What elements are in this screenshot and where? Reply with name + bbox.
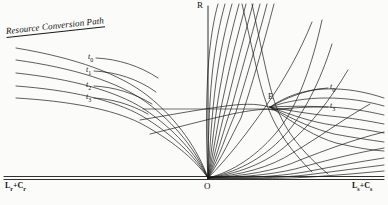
- curve-label-left-t1: t1: [86, 66, 91, 76]
- left-label-leaders: [94, 58, 158, 114]
- left-axis-sub-r2: r: [23, 186, 26, 192]
- r-axis-label: R: [197, 1, 203, 10]
- curve-label-left-t0: t0: [88, 53, 93, 63]
- curve-label-left-t2: t2: [86, 81, 91, 91]
- figure-canvas: Resource Conversion Path R O E Lr+Cr Ls+…: [0, 0, 388, 205]
- curve-label-right-t0: t0: [330, 83, 335, 93]
- curve-label-left-t1-sub: 1: [88, 70, 91, 76]
- right-axis-label: Ls+Cs: [352, 182, 372, 192]
- left-axis-plus-C: +C: [13, 181, 23, 190]
- right-axis-sub-s2: s: [370, 186, 372, 192]
- through-equilibrium-curves: [140, 4, 328, 178]
- origin-label: O: [204, 182, 211, 191]
- curve-label-right-t3-sub: 3: [332, 106, 335, 112]
- equilibrium-label: E: [268, 93, 273, 101]
- curve-label-right-t0-sub: 0: [332, 87, 335, 93]
- curve-label-left-t2-sub: 2: [88, 85, 91, 91]
- horizontal-axis: [4, 177, 384, 180]
- curve-label-left-t3: t3: [86, 93, 91, 103]
- left-axis-label: Lr+Cr: [5, 182, 26, 192]
- central-curve-bundle: [207, 4, 275, 178]
- curve-label-right-t3: t3: [330, 102, 335, 112]
- curve-label-left-t0-sub: 0: [90, 57, 93, 63]
- curve-label-left-t3-sub: 3: [88, 97, 91, 103]
- right-axis-plus-C: +C: [360, 181, 370, 190]
